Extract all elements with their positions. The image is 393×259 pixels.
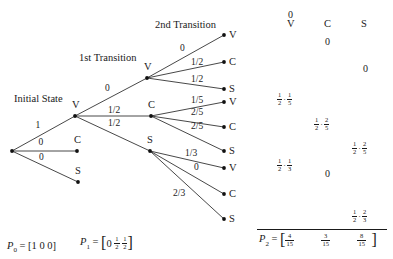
node-l3-6 [222, 166, 226, 170]
node-l2-c [149, 114, 153, 118]
table-cell-c: 0 [325, 168, 330, 179]
table-cell-s: 12·25 [352, 141, 367, 155]
node-label-l3-c: C [229, 57, 236, 68]
node-l1-v [73, 114, 77, 118]
node-label-l3-v: V [229, 30, 237, 41]
edge-prob-l3-6: 1/3 [185, 149, 197, 159]
edge-prob-l1-c: 0 [39, 138, 44, 148]
edge-l3-2 [147, 78, 224, 89]
heading-second-transition: 2nd Transition [155, 20, 216, 31]
node-l3-5 [222, 149, 226, 153]
node-l3-0 [222, 33, 226, 37]
node-l3-2 [222, 87, 226, 91]
edge-l3-8 [150, 151, 224, 219]
node-l2-s [148, 149, 152, 153]
table-cell-v: 0 [288, 9, 293, 20]
column-header-s: S [361, 18, 367, 29]
node-l3-1 [222, 60, 226, 64]
table-cell-s: 0 [363, 63, 368, 74]
edge-prob-l3-0: 0 [180, 44, 185, 54]
vector-p1: P1 = [0 12 12] [80, 234, 133, 252]
table-cell-v: 12·13 [277, 158, 292, 172]
node-label-l3-s: S [229, 214, 235, 225]
node-label-l3-c: C [229, 189, 236, 200]
edge-prob-l3-8: 2/3 [173, 189, 185, 199]
node-label-l3-s: S [229, 84, 235, 95]
edge-prob-l3-2: 1/2 [191, 75, 203, 85]
node-label-l3-v: V [229, 97, 237, 108]
edge-l3-0 [147, 35, 224, 78]
table-cell-c: 12·25 [314, 117, 329, 131]
edge-prob-l2-v: 0 [105, 84, 110, 94]
node-label-l1-v: V [72, 100, 80, 111]
node-label-l2-v: V [144, 62, 152, 73]
node-label-l2-c: C [148, 100, 155, 111]
node-label-l1-c: C [74, 135, 81, 146]
node-label-l3-v: V [229, 163, 237, 174]
node-l3-4 [222, 125, 226, 129]
vector-p0: P0 = [1 0 0] [7, 240, 56, 254]
edge-prob-l1-v: 1 [36, 121, 41, 131]
edge-prob-l3-7: 0 [194, 163, 199, 173]
root-node [10, 149, 14, 153]
node-l3-7 [222, 192, 226, 196]
heading-initial-state: Initial State [14, 94, 63, 105]
vector-p0-value: [1 0 0] [28, 240, 56, 251]
node-l2-v [145, 76, 149, 80]
node-l3-3 [222, 100, 226, 104]
node-l1-s [76, 180, 80, 184]
edge-l3-1 [147, 62, 224, 78]
edge-prob-l3-1: 1/2 [191, 58, 203, 68]
edge-prob-l2-s: 1/2 [108, 119, 120, 129]
vector-p2: P2 = [415315815] [259, 231, 389, 249]
heading-first-transition: 1st Transition [79, 53, 136, 64]
edge-root-s [12, 151, 78, 182]
node-label-l3-s: S [229, 146, 235, 157]
edge-prob-l2-c: 1/2 [108, 106, 120, 116]
edge-prob-l3-4: 2/5 [191, 108, 203, 118]
edge-l3-3 [151, 102, 224, 116]
sum-rule [257, 229, 387, 230]
node-label-l2-s: S [147, 135, 153, 146]
edge-prob-l3-3: 1/5 [191, 96, 203, 106]
edge-root-v [12, 116, 75, 151]
node-l3-8 [222, 217, 226, 221]
edge-prob-l1-s: 0 [39, 153, 44, 163]
edge-prob-l3-5: 2/5 [191, 122, 203, 132]
table-cell-v: 12·15 [277, 92, 292, 106]
node-label-l1-s: S [75, 166, 81, 177]
node-l1-c [75, 149, 79, 153]
node-label-l3-c: C [229, 122, 236, 133]
column-header-c: C [324, 18, 331, 29]
table-cell-c: 0 [325, 36, 330, 47]
table-cell-s: 12·23 [352, 209, 367, 223]
